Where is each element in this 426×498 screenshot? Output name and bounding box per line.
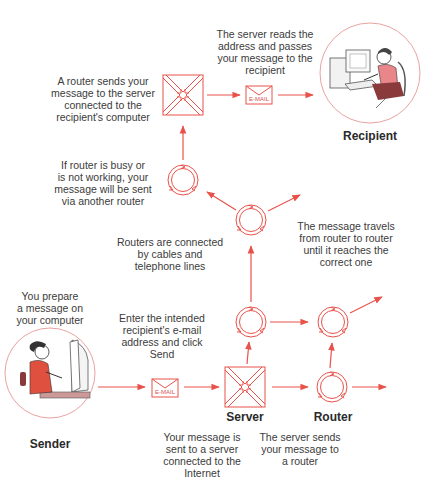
svg-text:E-MAIL: E-MAIL [249,96,270,102]
router-busy-icon [168,165,198,195]
server-top-icon [163,75,203,115]
caption-server-top: A router sends your message to the serve… [44,75,162,123]
caption-router-connected: Routers are connected by cables and tele… [114,236,226,272]
caption-server-bottom: Your message is sent to a server connect… [152,431,252,479]
caption-email-top: The server reads the address and passes … [210,28,320,76]
router-mid-right-icon [318,307,348,337]
router-center-icon [236,205,266,235]
server-bottom-icon [225,367,265,407]
email-bottom-icon: E-MAIL [152,379,178,397]
recipient-label: Recipient [320,129,420,143]
sender-label: Sender [0,437,100,451]
svg-text:E-MAIL: E-MAIL [155,389,176,395]
caption-router-bottom: The server sends your message to a route… [250,431,350,467]
caption-sender: You prepare a message on your computer [3,290,97,326]
recipient-node [320,23,420,123]
email-top-icon: E-MAIL [246,86,272,104]
caption-email-bottom: Enter the intended recipient's e-mail ad… [112,312,212,360]
router-label: Router [296,410,370,424]
sender-node [5,328,95,418]
caption-router-travel: The message travels from router to route… [290,220,402,268]
router-mid-left-icon [236,307,266,337]
server-label: Server [208,410,282,424]
caption-router-busy: If router is busy or is not working, you… [44,159,162,207]
router-bottom-icon [317,372,347,402]
